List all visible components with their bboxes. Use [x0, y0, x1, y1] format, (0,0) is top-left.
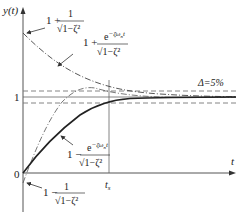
annotation-lower-start: 1 − 1 √1−ζ²	[27, 181, 85, 207]
settling-time-label: ts	[105, 179, 111, 192]
svg-text:√1−ζ²: √1−ζ²	[57, 23, 80, 35]
annotation-lower-envelope: 1 − e−ζωnt √1−ζ²	[61, 136, 110, 169]
x-axis-arrow-icon	[229, 171, 236, 176]
svg-text:1: 1	[64, 181, 69, 192]
tolerance-label: Δ=5%	[197, 77, 224, 88]
svg-text:e−ζωnt: e−ζωnt	[104, 30, 126, 42]
x-axis	[23, 171, 236, 176]
annotation-upper-envelope: 1 + e−ζωnt √1−ζ²	[58, 30, 128, 66]
y-axis-label: y(t)	[2, 4, 19, 17]
svg-text:1 +: 1 +	[83, 36, 97, 48]
svg-text:√1−ζ²: √1−ζ²	[55, 195, 78, 207]
x-axis-label: t	[231, 155, 235, 167]
svg-text:e−ζωnt: e−ζωnt	[87, 141, 109, 153]
one-label: 1	[14, 91, 20, 103]
origin-label: 0	[14, 168, 20, 180]
y-axis-arrow-icon	[21, 7, 26, 14]
svg-text:1: 1	[68, 8, 73, 19]
annotation-upper-start: 1 + 1 √1−ζ²	[27, 8, 84, 35]
step-response-diagram: y(t) t 0 1 ts Δ=5% 1 + 1 √1−ζ² 1 + e−ζωn…	[0, 0, 242, 214]
svg-text:√1−ζ²: √1−ζ²	[97, 46, 120, 58]
svg-text:√1−ζ²: √1−ζ²	[79, 157, 102, 169]
step-response-curve	[23, 97, 236, 173]
y-axis	[21, 7, 26, 212]
